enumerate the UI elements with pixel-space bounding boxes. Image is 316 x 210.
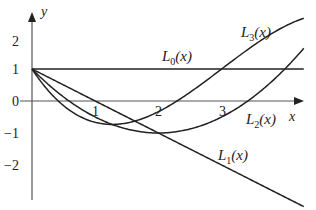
y-axis-label: y [39, 4, 48, 19]
y-tick-label: 0 [12, 94, 19, 109]
series-label: L1(x) [217, 147, 248, 166]
x-tick-label: 1 [92, 104, 99, 119]
x-tick-label: 3 [219, 104, 226, 119]
y-axis-arrow-icon [28, 12, 36, 22]
chart: 210−1−2123yxL0(x)L1(x)L2(x)L3(x) [0, 0, 316, 210]
y-tick-label: −2 [4, 158, 19, 173]
series-label: L2(x) [245, 111, 276, 130]
y-tick-label: −1 [4, 126, 19, 141]
x-tick-label: 2 [155, 104, 162, 119]
y-tick-label: 1 [12, 62, 19, 77]
labels: 210−1−2123yxL0(x)L1(x)L2(x)L3(x) [4, 4, 296, 173]
y-tick-label: 2 [12, 34, 19, 49]
x-axis-label: x [288, 109, 296, 124]
series-label: L0(x) [161, 48, 192, 67]
x-axis-arrow-icon [294, 97, 304, 105]
series-label: L3(x) [240, 24, 271, 43]
